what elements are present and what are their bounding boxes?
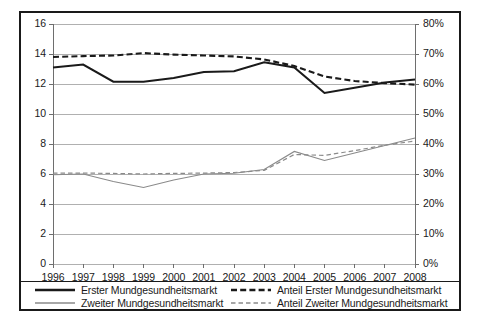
y-axis-left-tick-label: 10 (21, 107, 46, 119)
y-axis-left-tick-label: 6 (21, 167, 46, 179)
chart-legend: Erster Mundgesundheitsmarkt Zweiter Mund… (21, 282, 459, 311)
y-axis-right-tick-label: 20% (423, 197, 444, 209)
legend-label: Erster Mundgesundheitsmarkt (81, 284, 217, 296)
chart-frame: 161412108642080%70%60%50%40%30%20%10%0%1… (19, 11, 461, 311)
legend-item-erster-mundgesundheitsmarkt[interactable]: Erster Mundgesundheitsmarkt (35, 283, 217, 296)
legend-label: Zweiter Mundgesundheitsmarkt (81, 297, 223, 309)
legend-label: Anteil Erster Mundgesundheitsmarkt (277, 284, 441, 296)
y-axis-right-tick-label: 0% (423, 257, 438, 269)
legend-swatch-solid-gray (35, 298, 75, 308)
legend-item-anteil-zweiter-mundgesundheitsmarkt[interactable]: Anteil Zweiter Mundgesundheitsmarkt (231, 296, 447, 309)
y-axis-right-tick-label: 70% (423, 47, 444, 59)
y-axis-left-tick-label: 2 (21, 227, 46, 239)
chart-svg (21, 13, 459, 281)
legend-item-zweiter-mundgesundheitsmarkt[interactable]: Zweiter Mundgesundheitsmarkt (35, 296, 223, 309)
legend-swatch-dashed-gray (231, 298, 271, 308)
y-axis-left-tick-label: 14 (21, 47, 46, 59)
legend-label: Anteil Zweiter Mundgesundheitsmarkt (277, 297, 447, 309)
legend-swatch-solid-black (35, 285, 75, 295)
plot-area: 161412108642080%70%60%50%40%30%20%10%0%1… (21, 13, 459, 281)
y-axis-right-tick-label: 30% (423, 167, 444, 179)
y-axis-left-tick-label: 8 (21, 137, 46, 149)
y-axis-left-tick-label: 12 (21, 77, 46, 89)
y-axis-right-tick-label: 60% (423, 77, 444, 89)
y-axis-left-tick-label: 16 (21, 17, 46, 29)
y-axis-right-tick-label: 50% (423, 107, 444, 119)
legend-swatch-dashed-black (231, 285, 271, 295)
legend-item-anteil-erster-mundgesundheitsmarkt[interactable]: Anteil Erster Mundgesundheitsmarkt (231, 283, 441, 296)
y-axis-right-tick-label: 40% (423, 137, 444, 149)
y-axis-right-tick-label: 10% (423, 227, 444, 239)
y-axis-right-tick-label: 80% (423, 17, 444, 29)
y-axis-left-tick-label: 4 (21, 197, 46, 209)
y-axis-left-tick-label: 0 (21, 257, 46, 269)
